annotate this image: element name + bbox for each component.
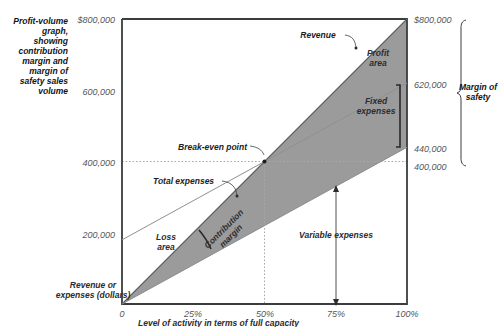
label-fixed-expenses-line2: expenses (357, 106, 396, 116)
label-profit-area-line1: Profit (367, 48, 390, 58)
figure-caption-line-6: margin of (29, 66, 69, 76)
figure-caption-line-3: showing (34, 36, 69, 46)
cvp-chart-svg: $800,000 600,000 400,000 200,000 $800,00… (0, 0, 501, 327)
leader-revenue (345, 35, 356, 47)
figure-caption-line-5: margin and (22, 56, 69, 66)
x-axis-caption: Level of activity in terms of full capac… (138, 318, 300, 327)
x-tick-label-0: 0 (119, 309, 124, 319)
label-loss-area-line1: Loss (156, 232, 176, 242)
figure-caption-line-1: Profit-volume (13, 16, 68, 26)
x-tick-label-100: 100% (395, 309, 418, 319)
label-margin-of-safety-line2: safety (466, 92, 492, 102)
leader-break-even (250, 146, 264, 155)
leader-dot-total-expenses (236, 195, 239, 198)
label-profit-area-line2: area (369, 58, 387, 68)
dimension-arrow-bottom (333, 299, 339, 306)
y-axis-caption-line-1: Revenue or (70, 280, 117, 290)
profit-volume-graph-figure: $800,000 600,000 400,000 200,000 $800,00… (0, 0, 501, 327)
break-even-marker (263, 160, 267, 164)
bracket-margin-of-safety (457, 20, 466, 166)
y-tick-label-600000: 600,000 (82, 87, 115, 97)
label-margin-of-safety-line1: Margin of (459, 82, 498, 92)
y-axis-caption-line-2: expenses (dollars) (56, 290, 131, 300)
figure-caption-line-7: safety sales (20, 76, 68, 86)
right-tick-label-620000: 620,000 (414, 80, 447, 90)
right-tick-label-800000: $800,000 (413, 15, 452, 25)
leader-dot-revenue (355, 47, 358, 50)
figure-caption-line-4: contribution (18, 46, 68, 56)
label-total-expenses: Total expenses (153, 176, 214, 186)
right-tick-label-400000: 400,000 (414, 162, 447, 172)
label-revenue: Revenue (300, 30, 336, 40)
label-loss-area-line2: area (157, 242, 175, 252)
label-fixed-expenses-line1: Fixed (365, 96, 388, 106)
figure-caption-line-8: volume (38, 86, 68, 96)
x-tick-label-75: 75% (327, 309, 345, 319)
y-tick-label-800000: $800,000 (76, 15, 115, 25)
right-tick-label-440000: 440,000 (414, 144, 447, 154)
y-tick-label-200000: 200,000 (81, 230, 115, 240)
figure-caption-line-2: graph, (41, 26, 68, 36)
label-break-even-point: Break-even point (178, 142, 248, 152)
y-tick-label-400000: 400,000 (82, 158, 115, 168)
